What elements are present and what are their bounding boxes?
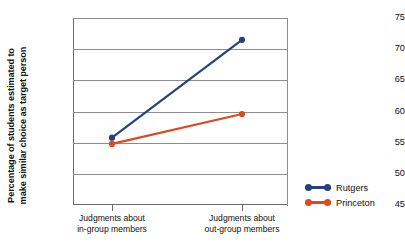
legend-item-rutgers[interactable]: Rutgers [305,180,375,195]
legend-swatch-rutgers [305,182,331,193]
x-tick-out-group [242,205,243,211]
y-axis-title-line-2: make similar choice as target person [18,47,30,205]
y-tick-label-50: 50 [343,168,405,178]
x-axis-label-in-group: Judgments about in-group members [47,213,177,235]
y-tick-label-70: 70 [343,43,405,53]
y-tick-label-60: 60 [343,106,405,116]
x-axis-label-in-group-line-1: Judgments about [47,213,177,224]
line-chart: Percentage of students estimated to make… [0,0,405,251]
x-tick-in-group [112,205,113,211]
x-axis-label-out-group-line-2: out-group members [177,224,307,235]
x-axis-label-in-group-line-2: in-group members [47,224,177,235]
legend: Rutgers Princeton [305,180,375,210]
y-tick-label-55: 55 [343,137,405,147]
y-tick-label-65: 65 [343,74,405,84]
y-axis-title-line-1: Percentage of students estimated to [6,47,18,205]
gridline-60 [73,112,288,113]
legend-label-princeton: Princeton [336,198,375,208]
legend-item-princeton[interactable]: Princeton [305,195,375,210]
legend-label-rutgers: Rutgers [336,183,368,193]
gridline-55 [73,143,288,144]
gridline-50 [73,174,288,175]
gridline-75 [73,18,288,19]
x-axis-label-out-group: Judgments about out-group members [177,213,307,235]
y-tick-label-75: 75 [343,12,405,22]
gridline-70 [73,49,288,50]
x-axis-label-out-group-line-1: Judgments about [177,213,307,224]
legend-swatch-princeton [305,197,331,208]
y-axis-title: Percentage of students estimated to make… [0,0,36,251]
gridline-65 [73,80,288,81]
